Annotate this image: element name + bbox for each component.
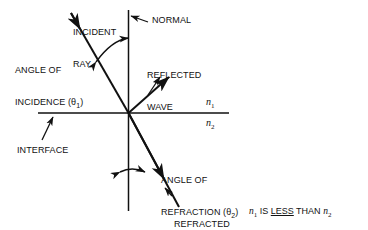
interface-label: INTERFACE xyxy=(17,145,68,156)
reflected-wave-line2: WAVE xyxy=(147,102,201,113)
note-text-after: THAN xyxy=(294,206,323,216)
reflected-wave-line1: REFLECTED xyxy=(147,70,201,81)
note-emphasis: LESS xyxy=(271,206,294,216)
angle-of-refraction-line1: ANGLE OF xyxy=(161,175,238,186)
angle-of-incidence-suffix: ) xyxy=(80,97,83,107)
angle-of-refraction-suffix: ) xyxy=(235,207,238,217)
note-second-subscript: 2 xyxy=(328,211,332,219)
refraction-diagram: INCIDENT RAY NORMAL ANGLE OF INCIDENCE (… xyxy=(0,0,368,230)
upper-medium-index-label: n1 xyxy=(206,96,215,110)
index-comparison-note: n1 IS LESS THAN n2 xyxy=(249,206,331,219)
normal-label: NORMAL xyxy=(152,15,191,26)
lower-medium-index-subscript: 2 xyxy=(211,123,215,131)
reflected-wave-label: REFLECTED WAVE xyxy=(147,49,201,133)
angle-of-incidence-prefix: INCIDENCE (θ xyxy=(15,97,76,107)
incident-ray-label-line1: INCIDENT xyxy=(73,27,116,38)
angle-of-incidence-line1: ANGLE OF xyxy=(15,65,83,76)
refracted-ray-label: REFRACTED RAY xyxy=(174,198,230,230)
note-text-before: IS xyxy=(257,206,271,216)
normal-leader-arrow xyxy=(131,16,148,22)
upper-medium-index-subscript: 1 xyxy=(211,102,215,110)
angle-of-incidence-line2: INCIDENCE (θ1) xyxy=(15,97,83,111)
angle-of-incidence-label: ANGLE OF INCIDENCE (θ1) xyxy=(15,44,83,132)
angle-of-refraction-arc xyxy=(120,169,145,172)
refracted-ray-line1: REFRACTED xyxy=(174,219,230,230)
lower-medium-index-label: n2 xyxy=(206,117,215,131)
